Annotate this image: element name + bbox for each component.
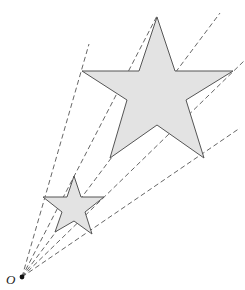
- enlargement-diagram: O: [0, 0, 245, 290]
- ray-top: [22, 14, 158, 277]
- center-point-o: [20, 275, 25, 280]
- small-star-object: [43, 176, 104, 234]
- center-label: O: [6, 272, 16, 287]
- ray-left: [22, 44, 89, 277]
- large-star-image: [82, 17, 233, 158]
- construction-rays: [22, 13, 245, 277]
